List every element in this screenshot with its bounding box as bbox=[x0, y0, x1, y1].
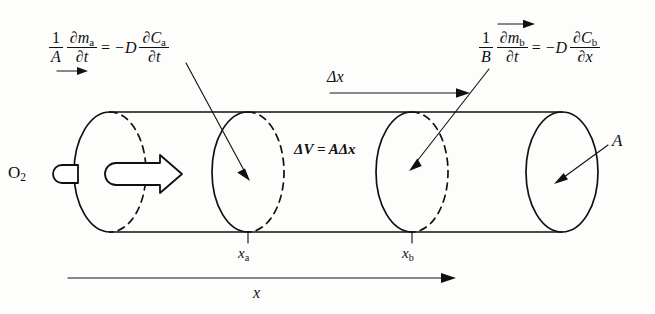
equation-b-coefficient: 1 B bbox=[478, 30, 494, 66]
equation-a-lhs-denominator: ∂t bbox=[73, 48, 91, 66]
diffusion-figure: 1 A ∂ma ∂t = −D ∂Ca ∂t 1 B ∂mb ∂t bbox=[0, 0, 655, 314]
equation-a-coeff-denominator: A bbox=[48, 48, 64, 66]
area-label: A bbox=[612, 131, 622, 151]
equation-a-lhs-derivative: ∂ma ∂t bbox=[67, 30, 97, 66]
cross-section-xb-back-arc bbox=[412, 112, 448, 232]
equation-b-coeff-numerator: 1 bbox=[479, 30, 493, 48]
equation-a-equals-sign: = bbox=[100, 40, 111, 56]
right-equation-over-arrow-head bbox=[523, 20, 535, 28]
x-a-tick-label: xa bbox=[238, 245, 249, 262]
equation-a-coefficient: 1 A bbox=[48, 30, 64, 66]
equation-b-equals-sign: = bbox=[531, 40, 542, 56]
cross-section-xa-back-arc bbox=[248, 112, 284, 232]
delta-volume-label: ΔV = AΔx bbox=[294, 141, 356, 158]
x-axis-arrow-head bbox=[441, 273, 456, 283]
leader-arrowhead-equation-b bbox=[409, 159, 422, 172]
leader-line-equation-a bbox=[186, 63, 246, 174]
equation-b-lhs-derivative: ∂mb ∂t bbox=[497, 30, 528, 66]
equation-a-rhs-denominator: ∂t bbox=[145, 48, 163, 66]
equation-a-lhs-numerator: ∂ma bbox=[67, 30, 97, 48]
flux-equation-a: 1 A ∂ma ∂t = −D ∂Ca ∂t bbox=[48, 30, 169, 66]
right-end-face-ellipse bbox=[526, 112, 598, 232]
equation-b-coeff-denominator: B bbox=[478, 48, 494, 66]
delta-x-label: Δx bbox=[327, 68, 344, 86]
leader-arrowhead-area-label bbox=[554, 173, 568, 184]
equation-a-coeff-numerator: 1 bbox=[49, 30, 63, 48]
equation-a-minus-d: −D bbox=[114, 40, 136, 56]
x-axis-label: x bbox=[253, 284, 260, 302]
oxygen-inflow-arrow-head bbox=[105, 155, 182, 193]
oxygen-inflow-arrow-tail bbox=[53, 165, 78, 183]
equation-b-minus-d: −D bbox=[545, 40, 567, 56]
cross-section-xb-front-arc bbox=[376, 112, 412, 232]
equation-b-lhs-numerator: ∂mb bbox=[497, 30, 528, 48]
equation-b-lhs-denominator: ∂t bbox=[503, 48, 521, 66]
equation-b-rhs-denominator: ∂x bbox=[575, 48, 596, 66]
leader-line-area-label bbox=[560, 145, 608, 180]
equation-a-rhs-derivative: ∂Ca ∂t bbox=[139, 30, 168, 66]
equation-b-rhs-derivative: ∂Cb ∂x bbox=[570, 30, 600, 66]
equation-b-rhs-numerator: ∂Cb bbox=[570, 30, 600, 48]
leader-arrowhead-equation-a bbox=[237, 168, 250, 181]
flux-equation-b: 1 B ∂mb ∂t = −D ∂Cb ∂x bbox=[478, 30, 600, 66]
oxygen-label: O2 bbox=[8, 163, 26, 183]
x-b-tick-label: xb bbox=[402, 245, 414, 262]
equation-a-rhs-numerator: ∂Ca bbox=[139, 30, 168, 48]
left-equation-under-arrow-head bbox=[77, 67, 88, 75]
